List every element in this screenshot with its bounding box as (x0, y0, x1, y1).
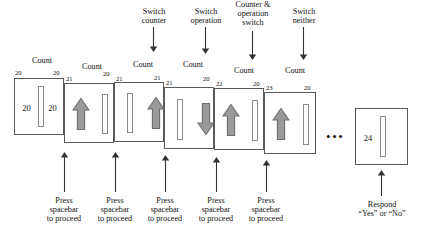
instruction-label-1: Press spacebar to proceed (38, 196, 90, 224)
trial-card-5-up-arrow-icon (222, 103, 240, 137)
count-label-5: Count (222, 66, 266, 75)
trial-card-1-right-number: 20 (41, 105, 64, 113)
trial-card-2-inner (65, 84, 113, 142)
count-label-3: Count (121, 60, 165, 69)
condition-label-3: Counter & operation switch (224, 0, 282, 28)
trial-card-6-bar (303, 104, 309, 145)
instruction-label-3: Press spacebar to proceed (139, 196, 191, 224)
instruction-label-6: Respond “Yes” or “No” (346, 200, 418, 218)
trial-card-2-bar (102, 94, 108, 134)
response-card-bar (380, 116, 386, 157)
trial-card-4-inner (165, 88, 213, 148)
condition-pointer-2 (201, 27, 210, 54)
trial-card-5-corner-right: 20 (253, 81, 260, 88)
instruction-pointer-2 (111, 152, 120, 192)
trial-card-5-inner (215, 89, 263, 149)
trial-card-4-bar (177, 99, 183, 140)
trial-card-2-corner-left: 21 (66, 76, 73, 83)
trial-card-4[interactable] (164, 87, 214, 149)
trial-card-4-corner-left: 21 (166, 80, 173, 87)
trial-card-2-corner-right: 20 (103, 71, 110, 78)
response-card-inner: 24 (356, 109, 407, 164)
condition-pointer-3 (248, 31, 257, 60)
count-label-6: Count (273, 66, 317, 75)
trial-card-3-bar (127, 93, 133, 133)
trial-card-1-corner-left: 20 (15, 70, 22, 77)
instruction-label-4: Press spacebar to proceed (190, 196, 242, 224)
trial-card-6-corner-left: 23 (266, 85, 273, 92)
trial-card-4-down-arrow-icon (197, 102, 215, 136)
trial-card-1-inner: 2020 (15, 79, 63, 134)
instruction-label-5: Press spacebar to proceed (240, 196, 292, 224)
count-label-4: Count (171, 60, 215, 69)
trial-card-3[interactable] (114, 82, 164, 142)
instruction-pointer-3 (161, 155, 170, 192)
trial-card-6-inner (265, 93, 315, 153)
instruction-label-2: Press spacebar to proceed (89, 196, 141, 224)
trial-card-3-up-arrow-icon (147, 96, 165, 130)
ellipsis: ••• (326, 130, 344, 143)
figure-canvas: Switch counterSwitch operationCounter & … (0, 0, 423, 231)
instruction-pointer-5 (262, 160, 271, 192)
trial-card-5[interactable] (214, 88, 264, 150)
count-label-1: Count (20, 56, 64, 65)
trial-card-5-corner-left: 22 (216, 81, 223, 88)
instruction-pointer-1 (60, 152, 69, 192)
response-card-left-number: 24 (356, 135, 380, 143)
instruction-pointer-4 (212, 157, 221, 192)
trial-card-2[interactable] (64, 83, 114, 143)
response-card[interactable]: 24 (355, 108, 408, 165)
trial-card-6[interactable] (264, 92, 316, 154)
condition-label-4: Switch neither (278, 7, 330, 25)
condition-pointer-4 (299, 27, 308, 60)
trial-card-3-corner-left: 21 (116, 76, 123, 83)
trial-card-1-corner-right: 20 (53, 70, 60, 77)
trial-card-2-up-arrow-icon (72, 97, 90, 131)
trial-card-4-corner-right: 20 (203, 76, 210, 83)
trial-card-3-inner (115, 83, 163, 141)
trial-card-3-corner-right: 21 (154, 75, 161, 82)
trial-card-6-corner-right: 20 (304, 85, 311, 92)
condition-label-1: Switch counter (128, 7, 180, 25)
trial-card-6-up-arrow-icon (272, 107, 290, 141)
condition-pointer-1 (149, 27, 158, 52)
instruction-pointer-6 (377, 170, 386, 196)
trial-card-5-bar (252, 100, 258, 141)
trial-card-1-left-number: 20 (15, 105, 38, 113)
trial-card-1[interactable]: 2020 (14, 78, 64, 135)
